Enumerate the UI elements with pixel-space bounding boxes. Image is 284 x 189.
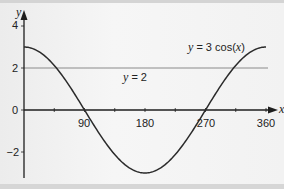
y-tick-label-4: 4	[12, 19, 18, 31]
chart-frame: 90 180 270 360 4 2 0 −2 y x y = 3 cos(x)…	[0, 0, 284, 189]
x-axis-label: x	[278, 102, 284, 116]
x-tick-label-90: 90	[78, 117, 90, 129]
hline-annotation: y = 2	[122, 70, 147, 84]
x-axis-arrow-icon	[268, 107, 278, 114]
y-tick-label-neg2: −2	[6, 146, 19, 158]
x-tick-label-360: 360	[257, 117, 275, 129]
y-axis-label: y	[15, 5, 22, 19]
plot-area: 90 180 270 360 4 2 0 −2 y x y = 3 cos(x)…	[0, 0, 284, 189]
y-tick-label-2: 2	[12, 62, 18, 74]
y-tick-label-0: 0	[12, 104, 18, 116]
curve-annotation: y = 3 cos(x)	[187, 40, 245, 54]
y-axis-arrow-icon	[21, 10, 28, 20]
x-tick-label-180: 180	[136, 117, 154, 129]
x-tick-label-270: 270	[197, 117, 215, 129]
